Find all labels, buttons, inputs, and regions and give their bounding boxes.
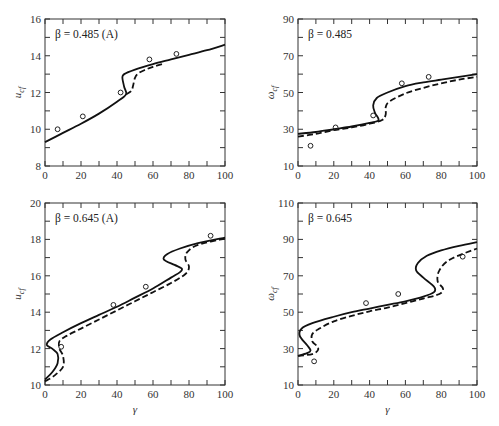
y-tick-label: 10 bbox=[283, 160, 295, 172]
plot-frame bbox=[45, 203, 225, 385]
data-point-marker bbox=[371, 113, 376, 118]
x-axis-label: γ bbox=[385, 403, 390, 415]
y-tick-label: 90 bbox=[283, 233, 295, 245]
y-tick-label: 18 bbox=[30, 233, 42, 245]
plot-frame bbox=[45, 19, 225, 166]
data-point-marker bbox=[143, 284, 148, 289]
y-tick-label: 14 bbox=[30, 306, 42, 318]
solid-curve bbox=[45, 238, 225, 380]
y-tick-label: 70 bbox=[283, 50, 295, 62]
panel-annotation: β = 0.645 bbox=[308, 212, 352, 225]
solid-curve bbox=[45, 45, 225, 142]
data-point-marker bbox=[364, 301, 369, 306]
x-tick-label: 0 bbox=[42, 169, 48, 181]
y-tick-label: 110 bbox=[278, 197, 295, 209]
panel-annotation: β = 0.485 bbox=[308, 28, 352, 41]
data-point-marker bbox=[399, 81, 404, 86]
y-tick-label: 20 bbox=[30, 197, 42, 209]
x-tick-label: 100 bbox=[217, 169, 234, 181]
y-tick-label: 8 bbox=[36, 160, 42, 172]
data-point-marker bbox=[59, 344, 64, 349]
x-tick-label: 0 bbox=[295, 388, 301, 400]
y-tick-label: 10 bbox=[30, 379, 42, 391]
x-tick-label: 40 bbox=[364, 388, 376, 400]
panel-top-right: 0204060801001030507090ωcfβ = 0.485 bbox=[264, 13, 486, 181]
dashed-curve bbox=[298, 249, 477, 356]
y-tick-label: 10 bbox=[30, 123, 42, 135]
y-tick-label: 70 bbox=[283, 270, 295, 282]
y-tick-label: 10 bbox=[283, 379, 295, 391]
x-tick-label: 20 bbox=[76, 388, 88, 400]
data-point-marker bbox=[208, 233, 213, 238]
dashed-curve bbox=[298, 77, 477, 137]
y-tick-label: 12 bbox=[30, 87, 41, 99]
x-tick-label: 20 bbox=[76, 169, 88, 181]
y-tick-label: 30 bbox=[283, 343, 295, 355]
x-tick-label: 20 bbox=[328, 169, 340, 181]
dashed-curve bbox=[45, 238, 225, 381]
panel-bottom-right: 0204060801001030507090110ωcfγβ = 0.645 bbox=[264, 197, 486, 415]
data-point-marker bbox=[55, 127, 60, 132]
x-tick-label: 60 bbox=[400, 388, 412, 400]
y-tick-label: 30 bbox=[283, 123, 295, 135]
dashed-curve bbox=[126, 64, 162, 94]
y-tick-label: 16 bbox=[30, 13, 42, 25]
x-axis-label: γ bbox=[133, 403, 138, 415]
data-point-marker bbox=[426, 74, 431, 79]
x-tick-label: 20 bbox=[328, 388, 340, 400]
x-tick-label: 60 bbox=[148, 169, 160, 181]
y-axis-label: ωcf bbox=[264, 285, 279, 300]
y-axis-label: ucf bbox=[11, 287, 26, 300]
panel-bottom-left: 020406080100101214161820ucfγβ = 0.645 (A… bbox=[11, 197, 234, 415]
data-point-marker bbox=[80, 114, 85, 119]
x-tick-label: 100 bbox=[217, 388, 234, 400]
x-tick-label: 0 bbox=[295, 169, 301, 181]
data-point-marker bbox=[308, 143, 313, 148]
panel-top-left: 020406080100810121416ucfβ = 0.485 (A) bbox=[11, 13, 234, 181]
y-tick-label: 90 bbox=[283, 13, 295, 25]
y-tick-label: 14 bbox=[30, 50, 42, 62]
x-tick-label: 80 bbox=[184, 169, 196, 181]
x-tick-label: 40 bbox=[364, 169, 376, 181]
x-tick-label: 80 bbox=[184, 388, 196, 400]
y-tick-label: 50 bbox=[283, 306, 295, 318]
x-tick-label: 60 bbox=[148, 388, 160, 400]
x-tick-label: 40 bbox=[112, 169, 124, 181]
x-tick-label: 100 bbox=[469, 388, 486, 400]
y-axis-label: ucf bbox=[11, 85, 26, 98]
data-point-marker bbox=[147, 57, 152, 62]
x-tick-label: 80 bbox=[436, 388, 448, 400]
data-point-marker bbox=[396, 292, 401, 297]
x-tick-label: 0 bbox=[42, 388, 48, 400]
x-tick-label: 40 bbox=[112, 388, 124, 400]
data-point-marker bbox=[460, 254, 465, 259]
x-tick-label: 60 bbox=[400, 169, 412, 181]
y-axis-label: ωcf bbox=[264, 84, 279, 99]
data-point-marker bbox=[111, 303, 116, 308]
y-tick-label: 16 bbox=[30, 270, 42, 282]
figure-canvas: 020406080100810121416ucfβ = 0.485 (A)020… bbox=[0, 0, 499, 426]
y-tick-label: 12 bbox=[30, 343, 41, 355]
data-point-marker bbox=[312, 359, 317, 364]
data-point-marker bbox=[174, 52, 179, 57]
x-tick-label: 100 bbox=[469, 169, 486, 181]
data-point-marker bbox=[118, 90, 123, 95]
panel-annotation: β = 0.645 (A) bbox=[55, 212, 118, 225]
y-tick-label: 50 bbox=[283, 87, 295, 99]
panel-annotation: β = 0.485 (A) bbox=[55, 28, 118, 41]
plot-frame bbox=[298, 203, 477, 385]
x-tick-label: 80 bbox=[436, 169, 448, 181]
